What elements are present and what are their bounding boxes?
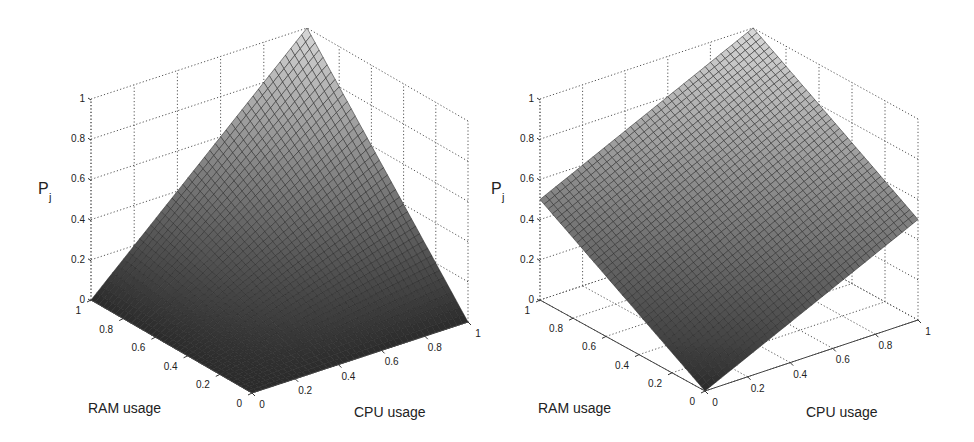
- ram-tick-label: 1: [524, 305, 530, 316]
- surface-plot-cpu-ram-mean: 00.20.40.60.8100.20.40.60.8100.20.40.60.…: [491, 28, 931, 420]
- surface-mesh: [91, 28, 468, 393]
- ram-tick-label: 0.2: [648, 378, 662, 389]
- cpu-tick-label: 0.2: [751, 383, 765, 394]
- cpu-tick-label: 1: [925, 326, 931, 337]
- ram-tick-label: 0.4: [615, 360, 629, 371]
- cpu-tick-label: 0.6: [836, 354, 850, 365]
- ram-tick-label: 0.4: [164, 361, 178, 372]
- cpu-tick-label: 0.8: [878, 340, 892, 351]
- z-tick-label: 1: [528, 93, 534, 104]
- x-axis-label-cpu: CPU usage: [806, 404, 878, 420]
- z-tick-label: 0.8: [71, 133, 85, 144]
- z-axis-label: P: [491, 180, 502, 197]
- z-tick-label: 1: [79, 93, 85, 104]
- z-axis-label-subscript: j: [501, 191, 504, 203]
- z-tick-label: 0.2: [71, 254, 85, 265]
- z-axis-label: P: [38, 180, 49, 197]
- surface-mesh: [540, 28, 918, 391]
- cpu-tick-label: 0.4: [341, 371, 355, 382]
- z-axis-label-subscript: j: [48, 191, 51, 203]
- ram-tick-label: 0: [236, 398, 242, 409]
- cpu-tick-label: 0: [259, 399, 265, 410]
- ram-tick-label: 0.8: [549, 323, 563, 334]
- z-tick-label: 0.6: [520, 173, 534, 184]
- z-tick-label: 0.6: [71, 173, 85, 184]
- ram-tick-label: 0.2: [196, 379, 210, 390]
- cpu-tick-label: 0.6: [385, 356, 399, 367]
- y-axis-label-ram: RAM usage: [88, 400, 161, 416]
- cpu-tick-label: 1: [475, 328, 481, 339]
- ram-tick-label: 0.8: [99, 324, 113, 335]
- cpu-tick-label: 0.4: [793, 369, 807, 380]
- ram-tick-label: 0: [689, 396, 695, 407]
- x-axis-label-cpu: CPU usage: [354, 404, 426, 420]
- cpu-tick-label: 0.2: [298, 385, 312, 396]
- y-axis-label-ram: RAM usage: [538, 400, 611, 416]
- cpu-tick-label: 0.8: [428, 342, 442, 353]
- ram-tick-label: 0.6: [131, 342, 145, 353]
- z-tick-label: 0.2: [520, 254, 534, 265]
- surface-plot-cpu-times-ram: 00.20.40.60.8100.20.40.60.8100.20.40.60.…: [38, 28, 481, 420]
- z-tick-label: 0: [528, 294, 534, 305]
- z-tick-label: 0: [79, 294, 85, 305]
- z-tick-label: 0.4: [71, 214, 85, 225]
- z-tick-label: 0.8: [520, 133, 534, 144]
- ram-tick-label: 0.6: [582, 341, 596, 352]
- ram-tick-label: 1: [75, 305, 81, 316]
- cpu-tick-label: 0: [712, 397, 718, 408]
- figure-canvas: 00.20.40.60.8100.20.40.60.8100.20.40.60.…: [0, 0, 974, 442]
- z-tick-label: 0.4: [520, 214, 534, 225]
